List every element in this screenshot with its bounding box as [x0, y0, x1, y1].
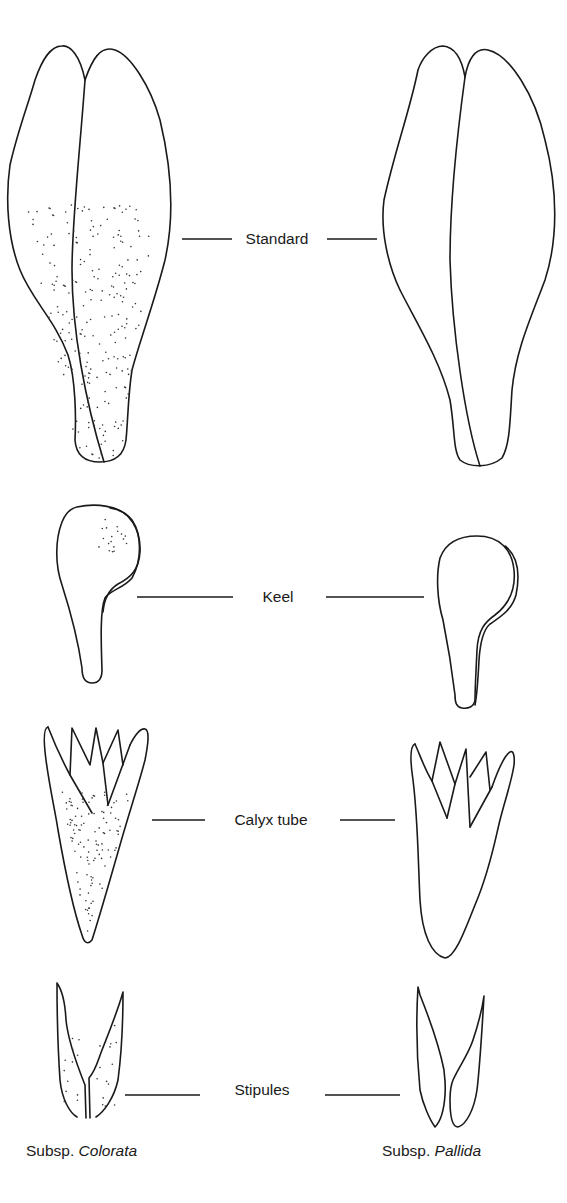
- subspecies-name: Colorata: [79, 1142, 138, 1159]
- label-keel: Keel: [262, 588, 293, 606]
- keel-colorata-drawing: [57, 505, 140, 683]
- keel-colorata-stipple: [98, 519, 127, 553]
- label-standard: Standard: [246, 230, 309, 248]
- calyx-colorata-drawing: [44, 727, 148, 943]
- subspecies-label-pallida: Subsp. Pallida: [382, 1142, 481, 1160]
- stipules-pallida-drawing: [417, 987, 484, 1127]
- keel-pallida-drawing: [438, 536, 518, 708]
- subspecies-prefix: Subsp.: [26, 1142, 74, 1159]
- calyx-pallida-drawing: [411, 742, 514, 958]
- subspecies-label-colorata: Subsp. Colorata: [26, 1142, 137, 1160]
- subspecies-name: Pallida: [435, 1142, 482, 1159]
- standard-pallida-drawing: [383, 46, 555, 466]
- label-stipules: Stipules: [234, 1081, 289, 1099]
- subspecies-prefix: Subsp.: [382, 1142, 430, 1159]
- label-calyx-tube: Calyx tube: [234, 811, 307, 829]
- standard-colorata-stipple: [28, 204, 150, 459]
- standard-colorata-drawing: [8, 46, 171, 462]
- stipules-colorata-drawing: [57, 983, 123, 1118]
- calyx-colorata-stipple: [62, 791, 129, 932]
